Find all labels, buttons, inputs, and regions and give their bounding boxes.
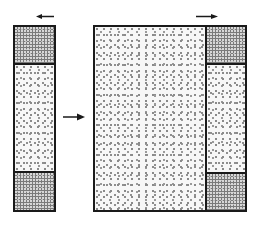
- right-top-arrow-icon: [196, 13, 218, 20]
- left-column-top-dense-zone: [13, 25, 56, 65]
- right-column-bottom-dense-zone: [205, 172, 247, 212]
- right-column-top-dense-zone: [205, 25, 247, 65]
- left-column-bottom-dense-zone: [13, 171, 56, 212]
- left-column-middle-sparse-zone: [13, 63, 56, 173]
- right-arrow-icon: [63, 113, 85, 121]
- right-column-middle-sparse-zone: [205, 63, 247, 174]
- left-arrow-icon: [36, 13, 54, 20]
- expanded-sparse-region: [93, 25, 207, 212]
